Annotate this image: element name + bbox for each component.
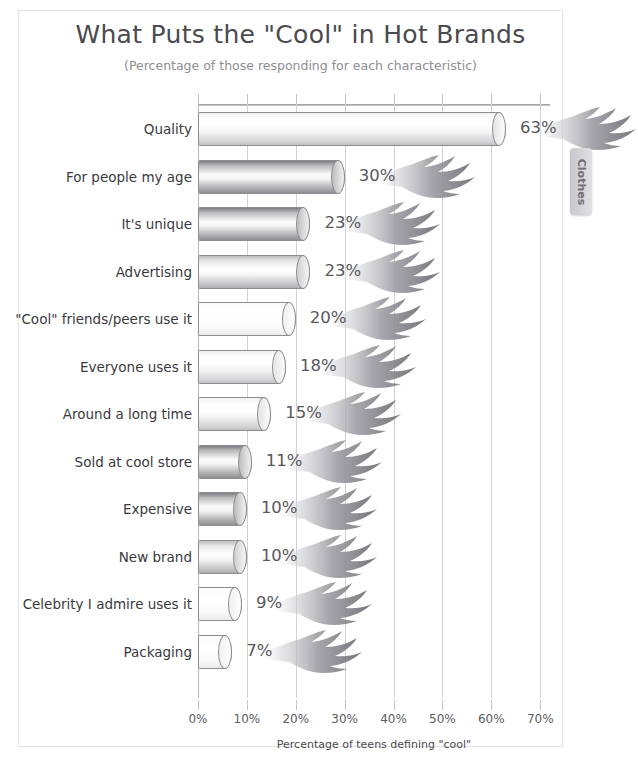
bar[interactable] — [198, 350, 286, 384]
axis-tick-20 — [296, 94, 297, 104]
bar[interactable] — [198, 207, 310, 241]
bar[interactable] — [198, 587, 242, 621]
axis-tick-bottom-30 — [345, 700, 346, 710]
bar-end-cap — [296, 255, 310, 289]
bar-row: 23% — [198, 255, 550, 289]
bar-value-label: 23% — [324, 261, 361, 280]
bar-value-label: 10% — [261, 498, 298, 517]
category-label: Around a long time — [6, 406, 192, 422]
bar-body — [199, 161, 344, 193]
bar-end-cap — [296, 207, 310, 241]
bar-end-cap — [228, 587, 242, 621]
bar-end-cap — [233, 492, 247, 526]
x-tick-label-10: 10% — [227, 712, 267, 726]
bar-row: 11% — [198, 445, 550, 479]
bar-row: 10% — [198, 492, 550, 526]
bar-end-cap — [282, 302, 296, 336]
bar[interactable] — [198, 112, 506, 146]
axis-tick-0 — [198, 94, 199, 104]
bar-end-cap — [233, 540, 247, 574]
side-tab-clothes[interactable]: Clothes — [570, 148, 592, 215]
axis-tick-bottom-50 — [442, 700, 443, 710]
bar-value-label: 11% — [266, 451, 303, 470]
bar-row: 9% — [198, 587, 550, 621]
category-label: Sold at cool store — [6, 454, 192, 470]
axis-tick-50 — [442, 94, 443, 104]
x-tick-label-40: 40% — [374, 712, 414, 726]
bar-value-label: 10% — [261, 546, 298, 565]
bar-body — [199, 256, 309, 288]
bar-end-cap — [272, 350, 286, 384]
category-label: "Cool" friends/peers use it — [6, 311, 192, 327]
bar[interactable] — [198, 302, 296, 336]
bar-row: 23% — [198, 207, 550, 241]
category-label: For people my age — [6, 169, 192, 185]
axis-tick-bottom-20 — [296, 700, 297, 710]
axis-tick-40 — [394, 94, 395, 104]
category-label: Celebrity I admire uses it — [6, 596, 192, 612]
axis-tick-30 — [345, 94, 346, 104]
bar-value-label: 30% — [359, 166, 396, 185]
bar-value-label: 9% — [256, 593, 282, 612]
bar-value-label: 15% — [285, 403, 322, 422]
axis-tick-60 — [491, 94, 492, 104]
x-tick-label-50: 50% — [422, 712, 462, 726]
chart-title: What Puts the "Cool" in Hot Brands — [0, 20, 601, 49]
bar-value-label: 20% — [310, 308, 347, 327]
category-label: New brand — [6, 549, 192, 565]
bar-end-cap — [238, 445, 252, 479]
bar[interactable] — [198, 255, 310, 289]
bar-end-cap — [218, 635, 232, 669]
bar-value-label: 63% — [520, 118, 557, 137]
bar-row: 30% — [198, 160, 550, 194]
category-label: Advertising — [6, 264, 192, 280]
bar[interactable] — [198, 635, 232, 669]
bar[interactable] — [198, 397, 271, 431]
bar-row: 15% — [198, 397, 550, 431]
x-tick-label-70: 70% — [520, 712, 560, 726]
category-label: Packaging — [6, 644, 192, 660]
bar-row: 20% — [198, 302, 550, 336]
bar-value-label: 18% — [300, 356, 337, 375]
bar-value-label: 23% — [324, 213, 361, 232]
bar-body — [199, 113, 505, 145]
bar[interactable] — [198, 492, 247, 526]
bar-row: 63% — [198, 112, 550, 146]
bar[interactable] — [198, 540, 247, 574]
side-tab-label: Clothes — [575, 158, 588, 205]
plot-area: 63% 30% 23% — [198, 104, 550, 698]
bar[interactable] — [198, 445, 252, 479]
bar-end-cap — [492, 112, 506, 146]
x-tick-label-30: 30% — [325, 712, 365, 726]
category-label: Quality — [6, 121, 192, 137]
bar[interactable] — [198, 160, 345, 194]
category-label-column: QualityFor people my ageIt's uniqueAdver… — [4, 104, 192, 698]
bar-body — [199, 208, 309, 240]
category-label: Expensive — [6, 501, 192, 517]
bar-row: 10% — [198, 540, 550, 574]
bar-row: 18% — [198, 350, 550, 384]
axis-tick-10 — [247, 94, 248, 104]
bar-body — [199, 303, 295, 335]
chart-subtitle: (Percentage of those responding for each… — [0, 58, 601, 73]
bar-value-label: 7% — [246, 641, 272, 660]
x-tick-label-60: 60% — [471, 712, 511, 726]
axis-tick-bottom-0 — [198, 700, 199, 710]
bar-end-cap — [331, 160, 345, 194]
category-label: It's unique — [6, 216, 192, 232]
bar-end-cap — [257, 397, 271, 431]
category-label: Everyone uses it — [6, 359, 192, 375]
x-tick-label-0: 0% — [178, 712, 218, 726]
axis-tick-bottom-60 — [491, 700, 492, 710]
axis-tick-bottom-70 — [540, 700, 541, 710]
x-tick-label-20: 20% — [276, 712, 316, 726]
axis-tick-bottom-10 — [247, 700, 248, 710]
bar-row: 7% — [198, 635, 550, 669]
x-axis-title: Percentage of teens defining "cool" — [198, 738, 550, 751]
axis-tick-bottom-40 — [394, 700, 395, 710]
axis-tick-70 — [540, 94, 541, 104]
